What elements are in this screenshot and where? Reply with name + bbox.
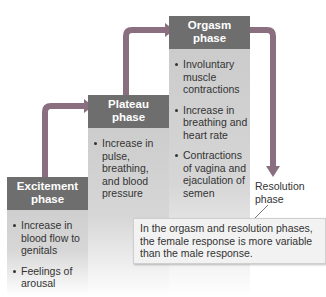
excitement-phase-box: Excitement phase Increase in blood flow …: [7, 177, 88, 297]
bullet-item: Contractions of vagina and ejaculation o…: [169, 149, 250, 199]
arrow-excitement-to-plateau: [45, 106, 86, 177]
bullet-item: Increase in pulse, breathing, and blood …: [88, 137, 169, 200]
resolution-phase-label: Resolution phase: [255, 180, 315, 205]
excitement-phase-title: Excitement phase: [7, 177, 88, 210]
plateau-bullets: Increase in pulse, breathing, and blood …: [88, 128, 169, 200]
arrow-orgasm-to-resolution: [250, 30, 273, 168]
bullet-item: Involuntary muscle contractions: [169, 58, 250, 96]
callout-note: In the orgasm and resolution phases, the…: [133, 218, 326, 264]
bullet-item: Increase in breathing and heart rate: [169, 104, 250, 142]
bullet-item: Feelings of arousal: [7, 265, 88, 290]
excitement-bullets: Increase in blood flow to genitals Feeli…: [7, 210, 88, 290]
arrow-plateau-to-orgasm: [126, 30, 167, 95]
orgasm-phase-title: Orgasm phase: [169, 16, 250, 49]
plateau-phase-box: Plateau phase Increase in pulse, breathi…: [88, 95, 169, 297]
bullet-item: Increase in blood flow to genitals: [7, 219, 88, 257]
orgasm-bullets: Involuntary muscle contractions Increase…: [169, 49, 250, 199]
plateau-phase-title: Plateau phase: [88, 95, 169, 128]
